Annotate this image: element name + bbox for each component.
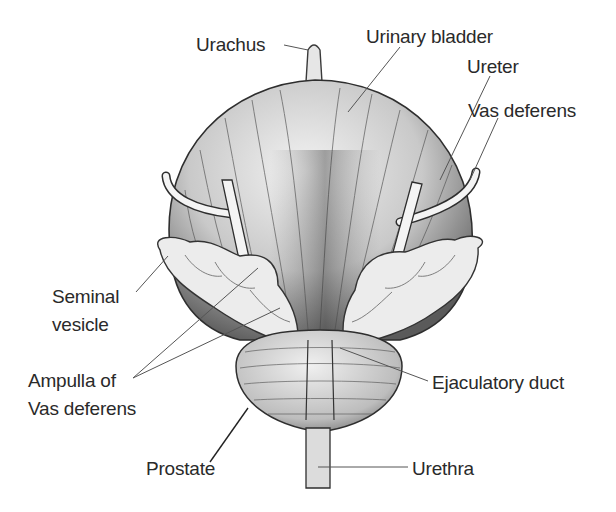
urachus-structure xyxy=(306,45,322,82)
anatomy-diagram: Urachus Urinary bladder Ureter Vas defer… xyxy=(0,0,616,512)
prostate-structure xyxy=(236,330,402,432)
urethra-structure xyxy=(306,428,330,488)
label-urinary-bladder: Urinary bladder xyxy=(366,26,493,48)
label-ureter: Ureter xyxy=(467,56,519,78)
label-ampulla-line1: Ampulla of xyxy=(28,370,116,392)
label-prostate: Prostate xyxy=(146,458,215,480)
label-vas-deferens: Vas deferens xyxy=(468,100,576,122)
leader-ureter xyxy=(440,76,490,180)
label-urethra: Urethra xyxy=(412,458,474,480)
label-seminal-vesicle-line2: vesicle xyxy=(52,314,109,336)
leader-prostate xyxy=(210,408,248,462)
leader-seminal-vesicle xyxy=(136,256,168,292)
leader-vas-deferens xyxy=(470,118,498,180)
leader-urachus xyxy=(284,45,308,50)
bladder-illustration xyxy=(0,0,616,512)
label-seminal-vesicle-line1: Seminal xyxy=(52,286,119,308)
label-ampulla-line2: Vas deferens xyxy=(28,398,136,420)
label-urachus: Urachus xyxy=(196,34,265,56)
label-ejaculatory-duct: Ejaculatory duct xyxy=(432,372,564,394)
